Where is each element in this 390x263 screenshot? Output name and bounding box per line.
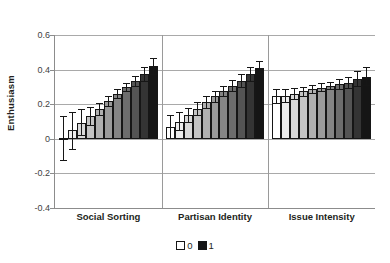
bar[interactable] bbox=[131, 81, 140, 139]
error-bar-cap bbox=[282, 102, 289, 103]
error-bar bbox=[179, 112, 180, 130]
bar-cell[interactable] bbox=[77, 35, 86, 208]
bar-cell[interactable] bbox=[228, 35, 237, 208]
bar[interactable] bbox=[335, 84, 344, 138]
bar[interactable] bbox=[149, 66, 158, 139]
bar-cell[interactable] bbox=[353, 35, 362, 208]
bar-cell[interactable] bbox=[131, 35, 140, 208]
bar[interactable] bbox=[255, 68, 264, 139]
error-bar-cap bbox=[282, 89, 289, 90]
legend-item[interactable]: 0 bbox=[176, 240, 192, 251]
bar[interactable] bbox=[353, 79, 362, 139]
bar-cell[interactable] bbox=[308, 35, 317, 208]
bar-cell[interactable] bbox=[281, 35, 290, 208]
group-separator bbox=[268, 35, 269, 208]
bar-cell[interactable] bbox=[272, 35, 281, 208]
y-tick-label: 0.4 bbox=[16, 65, 50, 75]
error-bar-cap bbox=[141, 81, 148, 82]
error-bar bbox=[303, 87, 304, 96]
bar-cell[interactable] bbox=[362, 35, 371, 208]
bar[interactable] bbox=[290, 94, 299, 139]
error-bar bbox=[259, 61, 260, 74]
error-bar-cap bbox=[114, 89, 121, 90]
bar-group bbox=[162, 35, 269, 208]
bar[interactable] bbox=[113, 94, 122, 139]
bar-cell[interactable] bbox=[166, 35, 175, 208]
bar-cell[interactable] bbox=[219, 35, 228, 208]
bar[interactable] bbox=[140, 74, 149, 139]
bar-cell[interactable] bbox=[95, 35, 104, 208]
bar[interactable] bbox=[211, 96, 220, 138]
bar-cell[interactable] bbox=[335, 35, 344, 208]
bars bbox=[59, 35, 158, 208]
error-bar-cap bbox=[87, 107, 94, 108]
bar-cell[interactable] bbox=[149, 35, 158, 208]
bar[interactable] bbox=[317, 88, 326, 139]
error-bar-cap bbox=[132, 76, 139, 77]
error-bar bbox=[285, 89, 286, 102]
legend-item[interactable]: 1 bbox=[198, 240, 214, 251]
bar[interactable] bbox=[299, 91, 308, 139]
plot-area bbox=[55, 35, 375, 208]
error-bar-cap bbox=[336, 79, 343, 80]
bar-cell[interactable] bbox=[86, 35, 95, 208]
error-bar-cap bbox=[300, 87, 307, 88]
bar-cell[interactable] bbox=[104, 35, 113, 208]
bar-cell[interactable] bbox=[122, 35, 131, 208]
bar[interactable] bbox=[237, 81, 246, 139]
bar-group bbox=[268, 35, 375, 208]
y-tick-label: -0.4 bbox=[16, 203, 50, 213]
error-bar-cap bbox=[363, 85, 370, 86]
bar-cell[interactable] bbox=[193, 35, 202, 208]
error-bar-cap bbox=[354, 86, 361, 87]
enthusiasm-bar-chart: Enthusiasm 0.60.40.20-0.2-0.4 Social Sor… bbox=[0, 0, 390, 263]
bar-cell[interactable] bbox=[184, 35, 193, 208]
error-bar bbox=[215, 91, 216, 101]
error-bar bbox=[312, 85, 313, 93]
bar-cell[interactable] bbox=[140, 35, 149, 208]
bar[interactable] bbox=[219, 91, 228, 139]
error-bar-cap bbox=[354, 71, 361, 72]
error-bar-cap bbox=[176, 112, 183, 113]
bar-cell[interactable] bbox=[68, 35, 77, 208]
bar-cell[interactable] bbox=[326, 35, 335, 208]
bar[interactable] bbox=[122, 87, 131, 139]
error-bar-cap bbox=[203, 96, 210, 97]
bar-cell[interactable] bbox=[317, 35, 326, 208]
bar-cell[interactable] bbox=[113, 35, 122, 208]
error-bar bbox=[321, 83, 322, 91]
error-bar bbox=[126, 83, 127, 92]
error-bar-cap bbox=[212, 102, 219, 103]
bar-cell[interactable] bbox=[202, 35, 211, 208]
error-bar bbox=[72, 112, 73, 149]
error-bar bbox=[170, 115, 171, 138]
error-bar-cap bbox=[60, 160, 67, 161]
bar-cell[interactable] bbox=[175, 35, 184, 208]
bar-cell[interactable] bbox=[246, 35, 255, 208]
error-bar-cap bbox=[194, 102, 201, 103]
y-tick-label: -0.2 bbox=[16, 168, 50, 178]
bar-groups bbox=[55, 35, 375, 208]
bar-cell[interactable] bbox=[290, 35, 299, 208]
bar-cell[interactable] bbox=[344, 35, 353, 208]
error-bar-cap bbox=[247, 67, 254, 68]
bar[interactable] bbox=[308, 89, 317, 138]
bar-cell[interactable] bbox=[237, 35, 246, 208]
bar-cell[interactable] bbox=[211, 35, 220, 208]
bar-cell[interactable] bbox=[59, 35, 68, 208]
x-axis-category-label: Partisan Identity bbox=[162, 211, 269, 229]
error-bar bbox=[241, 74, 242, 87]
bar-cell[interactable] bbox=[255, 35, 264, 208]
error-bar-cap bbox=[69, 112, 76, 113]
error-bar bbox=[276, 89, 277, 103]
bar[interactable] bbox=[326, 86, 335, 139]
bars bbox=[272, 35, 371, 208]
error-bar-cap bbox=[96, 103, 103, 104]
bar[interactable] bbox=[228, 86, 237, 139]
bar-cell[interactable] bbox=[299, 35, 308, 208]
error-bar-cap bbox=[291, 99, 298, 100]
error-bar-cap bbox=[363, 67, 370, 68]
bar[interactable] bbox=[344, 83, 353, 139]
error-bar bbox=[223, 86, 224, 96]
bar[interactable] bbox=[246, 74, 255, 139]
